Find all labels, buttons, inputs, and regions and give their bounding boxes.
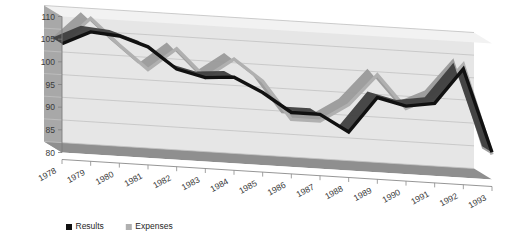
- x-axis-tick-label: 1991: [409, 189, 431, 207]
- x-axis-tick-label: 1982: [151, 173, 173, 191]
- chart-legend: ResultsExpenses: [66, 221, 173, 231]
- x-axis-tick-label: 1987: [295, 182, 317, 200]
- y-axis-tick-label: 85: [46, 125, 56, 135]
- x-axis-tick-label: 1993: [467, 192, 489, 210]
- x-axis-tick-label: 1992: [438, 191, 460, 209]
- x-axis-tick-label: 1986: [266, 180, 288, 198]
- legend-label-expenses: Expenses: [135, 221, 172, 231]
- chart-container: 80859095100105110 1978197919801981198219…: [0, 0, 506, 250]
- x-axis-tick-label: 1988: [323, 183, 345, 201]
- y-axis-tick-label: 80: [46, 148, 56, 158]
- legend-swatch-expenses: [126, 224, 132, 230]
- x-axis-tick-label: 1979: [65, 167, 87, 185]
- legend-swatch-results: [66, 224, 72, 230]
- x-axis-tick-label: 1989: [352, 185, 374, 203]
- legend-label-results: Results: [76, 221, 104, 231]
- x-axis-tick-label: 1980: [94, 169, 116, 187]
- y-axis-tick-label: 90: [46, 102, 56, 112]
- x-axis-tick-label: 1983: [180, 174, 202, 192]
- line-chart-3d: 80859095100105110 1978197919801981198219…: [0, 0, 506, 250]
- x-axis-tick-label: 1978: [37, 165, 59, 183]
- y-axis-tick-label: 95: [46, 80, 56, 90]
- x-axis-tick-label: 1985: [237, 178, 259, 196]
- x-axis-tick-label: 1981: [123, 171, 145, 189]
- y-axis-tick-label: 110: [41, 12, 55, 22]
- x-axis-tick-label: 1984: [209, 176, 231, 194]
- x-axis-tick-label: 1990: [381, 187, 403, 205]
- y-axis-tick-label: 105: [41, 34, 55, 44]
- y-axis-tick-label: 100: [41, 57, 55, 67]
